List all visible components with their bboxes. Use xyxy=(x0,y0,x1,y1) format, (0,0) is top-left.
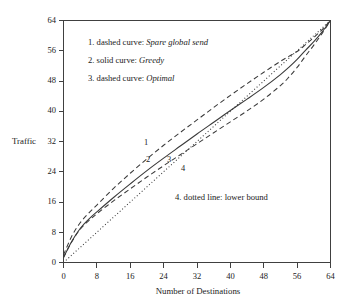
legend-item-4: 4. dotted line: lower bound xyxy=(175,193,268,202)
legend-item-1-number: 1. xyxy=(88,37,94,47)
y-tick-label-8: 8 xyxy=(38,227,56,237)
x-tick-label-0: 0 xyxy=(54,271,74,281)
y-tick-label-40: 40 xyxy=(38,105,56,115)
legend-item-4-kind: dotted line: xyxy=(184,192,223,202)
legend-item-1-name: Spare global send xyxy=(146,37,208,47)
y-tick-label-32: 32 xyxy=(38,136,56,146)
x-tick-label-40: 40 xyxy=(220,271,240,281)
legend-item-4-name: lower bound xyxy=(225,192,268,202)
legend-item-4-number: 4. xyxy=(175,192,181,202)
y-tick-label-56: 56 xyxy=(38,45,56,55)
legend-item-2-name: Greedy xyxy=(139,55,164,65)
x-axis-title: Number of Destinations xyxy=(133,286,263,296)
legend-item-3-number: 3. xyxy=(88,73,94,83)
legend-item-3: 3. dashed curve: Optimal xyxy=(88,74,174,83)
x-tick-label-32: 32 xyxy=(187,271,207,281)
curve-tag-1: 1 xyxy=(140,138,152,147)
figure-container: 64 56 48 40 32 24 16 8 0 0 8 16 24 32 40… xyxy=(0,0,352,307)
x-tick-label-16: 16 xyxy=(120,271,140,281)
y-axis-ticks xyxy=(59,21,64,263)
x-tick-label-48: 48 xyxy=(254,271,274,281)
legend-item-2-kind: solid curve: xyxy=(97,55,137,65)
curve-tag-4: 4 xyxy=(177,164,189,173)
y-tick-label-24: 24 xyxy=(38,166,56,176)
legend-item-1: 1. dashed curve: Spare global send xyxy=(88,38,208,47)
curve-tag-2: 2 xyxy=(142,155,154,164)
x-tick-label-56: 56 xyxy=(287,271,307,281)
x-axis-ticks xyxy=(64,263,331,268)
y-tick-label-16: 16 xyxy=(38,196,56,206)
x-tick-label-8: 8 xyxy=(87,271,107,281)
y-tick-label-0: 0 xyxy=(38,257,56,267)
y-tick-label-64: 64 xyxy=(38,15,56,25)
legend-item-2-number: 2. xyxy=(88,55,94,65)
y-axis-title: Traffic xyxy=(3,136,36,146)
legend-item-3-kind: dashed curve: xyxy=(97,73,144,83)
legend-item-1-kind: dashed curve: xyxy=(97,37,144,47)
legend-item-2: 2. solid curve: Greedy xyxy=(88,56,164,65)
x-tick-label-64: 64 xyxy=(321,271,341,281)
x-tick-label-24: 24 xyxy=(154,271,174,281)
legend-item-3-name: Optimal xyxy=(146,73,174,83)
curve-tag-3: 3 xyxy=(163,155,175,164)
y-tick-label-48: 48 xyxy=(38,75,56,85)
